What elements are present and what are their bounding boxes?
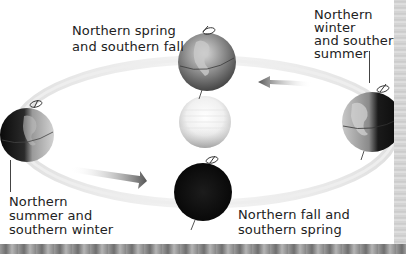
- label-line: southern winter: [9, 223, 113, 237]
- label-line: and southern fall: [72, 39, 184, 55]
- label-line: Northern fall and: [238, 207, 350, 222]
- label-northern-winter: Northern winter and southern summer: [314, 8, 401, 60]
- label-line: Northern spring: [72, 23, 184, 39]
- label-northern-summer: Northern summer and southern winter: [9, 195, 113, 237]
- earth-globe-spring-icon: [178, 26, 236, 99]
- label-line: Northern: [9, 195, 113, 209]
- label-line: summer: [314, 47, 401, 60]
- earth-globe-summer-icon: [0, 100, 54, 162]
- page-edge-bottom: [0, 244, 406, 254]
- sun-icon: [179, 96, 231, 148]
- orbit-arrow-left-icon: [258, 76, 312, 88]
- label-line: summer and: [9, 209, 113, 223]
- label-northern-spring: Northern spring and southern fall: [72, 23, 184, 55]
- label-line: southern spring: [238, 222, 350, 237]
- label-northern-fall: Northern fall and southern spring: [238, 207, 350, 237]
- summer-leader-line: [10, 160, 11, 192]
- page-edge-right: [394, 0, 406, 254]
- earth-globe-fall-icon: [174, 156, 232, 230]
